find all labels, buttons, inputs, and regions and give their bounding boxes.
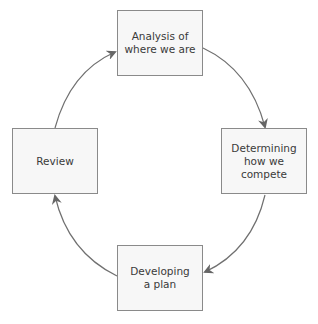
node-review-label: Review	[36, 155, 73, 168]
node-analysis-line1: Analysis of	[125, 30, 196, 43]
node-determining-line2: how we compete	[224, 155, 304, 181]
node-developing-line2: a plan	[130, 278, 189, 291]
node-developing-line1: Developing	[130, 265, 189, 278]
arrow-developing-to-review	[55, 196, 117, 276]
node-determining: Determining how we compete	[221, 128, 307, 194]
arrow-determining-to-developing	[205, 195, 265, 272]
node-developing: Developing a plan	[117, 245, 203, 311]
arrow-review-to-analysis	[55, 52, 115, 128]
node-analysis-line2: where we are	[125, 43, 196, 56]
node-determining-line1: Determining	[224, 142, 304, 155]
node-review: Review	[12, 128, 98, 194]
arrow-analysis-to-determining	[203, 48, 265, 127]
node-analysis: Analysis of where we are	[117, 10, 203, 76]
